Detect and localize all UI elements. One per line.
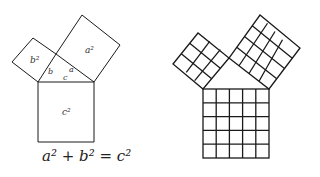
label-a-square: a² bbox=[85, 45, 94, 55]
right-figure bbox=[173, 15, 300, 158]
label-side-c: c bbox=[63, 73, 68, 82]
small-grid-square bbox=[173, 33, 229, 89]
label-side-b: b bbox=[48, 67, 53, 76]
label-b-square: b² bbox=[30, 55, 40, 65]
medium-grid-square bbox=[229, 15, 300, 89]
label-side-a: a bbox=[69, 65, 74, 74]
label-c-square: c² bbox=[62, 107, 71, 117]
large-grid-square bbox=[203, 89, 269, 158]
pythagorean-equation: a² + b² = c² bbox=[42, 147, 131, 165]
